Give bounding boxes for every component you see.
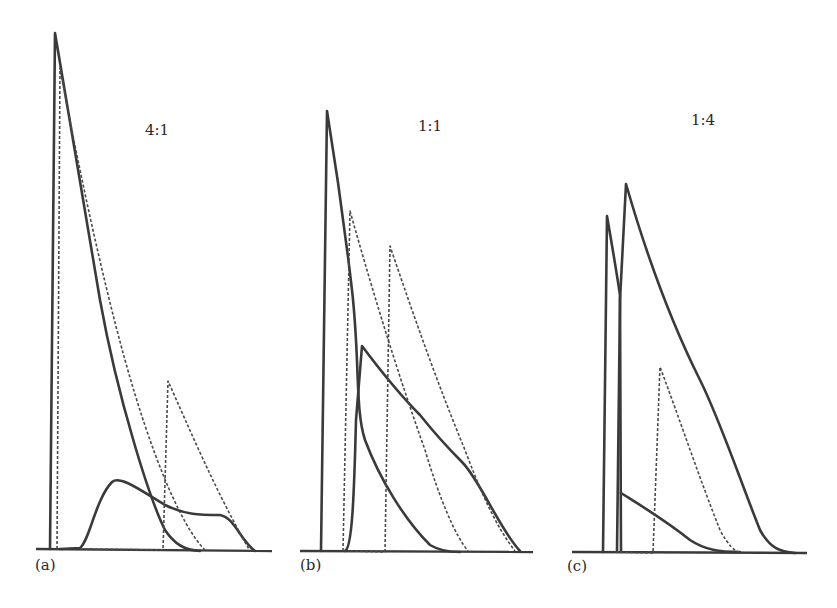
panel-b-solid-peak-2 — [345, 346, 520, 551]
panel-c-solid-peak-2 — [617, 184, 795, 553]
panel-c-solid-tail — [621, 493, 740, 552]
chart-canvas — [0, 0, 837, 608]
panel-b-baseline — [300, 551, 533, 552]
figure: 4:1 1:1 1:4 (a) (b) (c) — [0, 0, 837, 608]
panel-b — [300, 111, 533, 552]
panel-a — [36, 33, 272, 551]
panel-b-solid-peak-1 — [321, 111, 460, 552]
panel-a-dashed-peak-2 — [80, 381, 250, 551]
ratio-label-a: 4:1 — [145, 121, 169, 139]
panel-label-b: (b) — [300, 556, 321, 574]
panel-a-solid-peak — [50, 33, 200, 551]
panel-b-dashed-peak-1 — [343, 211, 468, 551]
panel-c — [572, 184, 807, 553]
panel-c-dashed-peak — [615, 367, 740, 553]
panel-a-dashed-peak-1 — [57, 68, 205, 550]
panel-label-a: (a) — [35, 556, 56, 574]
ratio-label-b: 1:1 — [418, 117, 442, 135]
ratio-label-c: 1:4 — [691, 111, 715, 129]
panel-c-baseline — [572, 552, 807, 553]
panel-label-c: (c) — [567, 557, 587, 575]
